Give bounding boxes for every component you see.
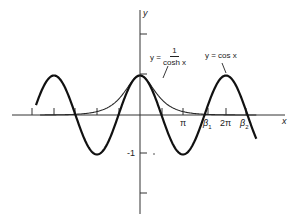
y-axis-label: y [143,9,148,18]
chart-canvas [0,0,294,223]
sech-label-prefix: y = [150,54,161,62]
cos-label: y = cos x [205,52,237,60]
sech-numerator: 1 [170,46,178,57]
x-ticks [32,108,246,115]
tick-label-beta2: β2 [240,119,249,130]
tick-label-neg-one: -1 [127,149,135,158]
x-axis-label: x [282,117,287,126]
sech-label-pointer [163,66,168,78]
sech-denominator: cosh x [163,57,186,67]
sech-label-fraction: 1 cosh x [163,46,186,67]
tick-label-beta1: β1 [203,119,212,130]
cos-label-pointer [222,63,226,73]
tick-label-2pi: 2π [220,119,231,128]
tick-label-pi: π [180,119,186,128]
y-ticks [140,34,147,193]
